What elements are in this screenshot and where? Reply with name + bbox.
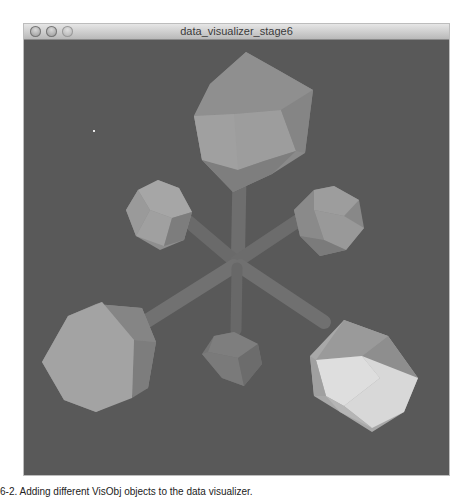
3d-canvas[interactable] (24, 40, 449, 475)
icosahedron-lower-right (310, 320, 418, 432)
shape-upper-right (294, 186, 364, 256)
scene-graphic (24, 40, 449, 475)
icosahedron-lower-left (42, 302, 156, 412)
icosahedron-top (194, 52, 313, 192)
shape-upper-left (126, 180, 192, 250)
light-point (93, 130, 95, 132)
shape-bottom-center (202, 332, 262, 386)
title-bar[interactable]: data_visualizer_stage6 (24, 24, 449, 40)
window-title: data_visualizer_stage6 (24, 25, 449, 38)
figure-caption: 6-2. Adding different VisObj objects to … (0, 486, 253, 500)
app-window: data_visualizer_stage6 (24, 24, 449, 475)
